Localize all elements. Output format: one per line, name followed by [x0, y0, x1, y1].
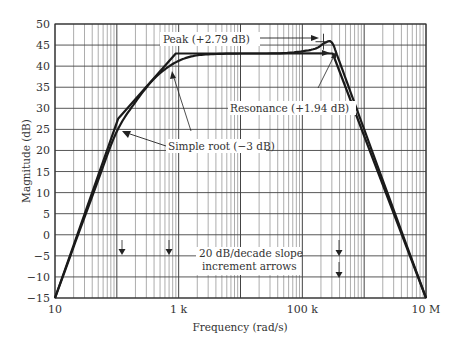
x-tick-label: 10 M — [412, 303, 441, 316]
y-tick-label: 10 — [36, 187, 50, 200]
slope-label-line2: increment arrows — [202, 260, 297, 272]
x-axis-ticks: 101 k100 k10 M — [48, 303, 440, 316]
y-tick-label: 50 — [36, 18, 50, 31]
y-tick-label: −10 — [27, 271, 50, 284]
y-tick-label: −5 — [34, 250, 50, 263]
y-tick-label: 35 — [36, 81, 50, 94]
y-tick-label: 5 — [43, 208, 50, 221]
simple-root-label: Simple root (−3 dB) — [168, 140, 275, 152]
x-axis-label: Frequency (rad/s) — [192, 321, 287, 333]
y-tick-label: 40 — [36, 60, 50, 73]
y-tick-label: 45 — [36, 39, 50, 52]
y-axis-label: Magnitude (dB) — [20, 119, 32, 203]
y-tick-label: −15 — [27, 292, 50, 305]
y-tick-label: 15 — [36, 166, 50, 179]
y-tick-label: 0 — [43, 229, 50, 242]
slope-label-line1: 20 dB/decade slope — [199, 247, 303, 259]
peak-label: Peak (+2.79 dB) — [163, 33, 250, 45]
x-tick-label: 1 k — [170, 303, 187, 316]
x-tick-label: 100 k — [287, 303, 318, 316]
resonance-label: Resonance (+1.94 dB) — [230, 102, 349, 114]
y-tick-label: 25 — [36, 123, 50, 136]
y-tick-label: 30 — [36, 102, 50, 115]
y-tick-label: 20 — [36, 144, 50, 157]
x-tick-label: 10 — [48, 303, 62, 316]
bode-magnitude-chart: 50454035302520151050−5−10−15 101 k100 k1… — [0, 0, 456, 346]
